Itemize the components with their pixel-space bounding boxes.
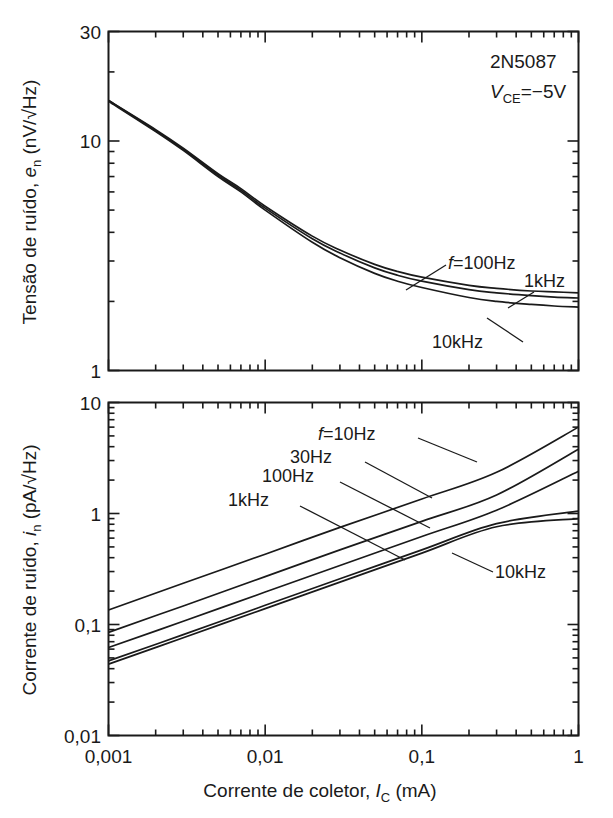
y-tick-label: 0,1 <box>75 615 101 636</box>
top-curve-label-100hz: f=100Hz <box>448 253 516 273</box>
top-curve-label-10khz: 10kHz <box>432 332 483 352</box>
bottom-curve-label-30hz: 30Hz <box>290 447 332 467</box>
x-tick-label: 0,1 <box>409 746 435 767</box>
bottom-curve-label-10khz: 10kHz <box>495 562 546 582</box>
top-curve-label-1khz: 1kHz <box>524 271 565 291</box>
noise-characteristics-figure: 30101 Tensão de ruído, en (nV/√Hz) 2N508… <box>0 0 613 818</box>
bottom-curve-label-10hz: f=10Hz <box>318 424 376 444</box>
x-tick-label: 0,001 <box>85 746 133 767</box>
y-tick-label: 1 <box>90 361 101 382</box>
y-tick-label: 0,01 <box>64 726 101 747</box>
y-tick-label: 30 <box>80 22 101 43</box>
x-tick-label: 1 <box>573 746 584 767</box>
y-tick-label: 10 <box>80 131 101 152</box>
device-label: 2N5087 <box>490 51 557 72</box>
figure-container: 30101 Tensão de ruído, en (nV/√Hz) 2N508… <box>0 0 613 818</box>
x-tick-label: 0,01 <box>247 746 284 767</box>
y-tick-label: 1 <box>90 504 101 525</box>
bottom-curve-label-100hz: 100Hz <box>262 466 314 486</box>
y-tick-label: 10 <box>80 393 101 414</box>
bottom-curve-label-1khz: 1kHz <box>228 490 269 510</box>
